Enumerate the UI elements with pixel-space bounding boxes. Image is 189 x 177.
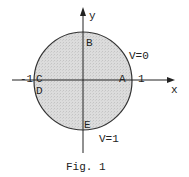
x-axis-arrow-icon (167, 77, 175, 83)
point-b: B (86, 37, 93, 49)
label-v1: V=1 (99, 133, 119, 145)
label-v0: V=0 (129, 50, 149, 62)
point-a: A (119, 73, 126, 85)
tick-pos-one: 1 (138, 73, 145, 85)
point-d: D (36, 85, 43, 97)
figure-diagram: y x -1 1 A B C D E V=0 V=1 Fig. 1 (0, 0, 189, 177)
y-axis-arrow-icon (80, 7, 86, 16)
y-axis-label: y (89, 10, 96, 22)
point-e: E (84, 119, 91, 131)
x-axis-label: x (171, 84, 178, 96)
figure-caption: Fig. 1 (66, 161, 106, 173)
point-c: C (36, 73, 43, 85)
tick-neg-one: -1 (20, 73, 34, 85)
